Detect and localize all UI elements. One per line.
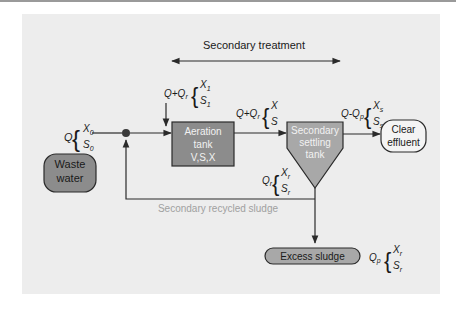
svg-text:Xr: Xr — [280, 167, 291, 180]
svg-text:S1: S1 — [200, 95, 211, 108]
aeration-outlet-label: Q+Qr { X S — [236, 100, 278, 129]
recycle-label: Secondary recycled sludge — [158, 203, 279, 214]
excess-sludge-label: Excess sludge — [280, 251, 345, 262]
svg-text:Xs: Xs — [372, 100, 384, 113]
svg-text:X1: X1 — [199, 79, 211, 92]
svg-text:Q+Qr: Q+Qr — [236, 108, 260, 120]
svg-text:S0: S0 — [83, 139, 94, 152]
aeration-tank-label-3: V,S,X — [191, 152, 216, 163]
waste-water-label-1: Waste — [55, 158, 86, 170]
svg-text:{: { — [262, 104, 269, 129]
aeration-tank-label-1: Aeration — [184, 126, 221, 137]
svg-text:X0: X0 — [82, 123, 94, 136]
settling-tank-label-1: Secondary — [291, 125, 339, 136]
effluent-stream-label: Q-Qp { Xs Ss — [341, 100, 384, 129]
svg-text:X: X — [270, 100, 278, 111]
aeration-inlet-label: Q+Qr { X1 S1 — [164, 79, 211, 108]
svg-text:{: { — [72, 125, 80, 152]
influent-stream-label: Q { X0 S0 — [64, 123, 94, 152]
svg-text:S: S — [271, 116, 278, 127]
mixing-junction — [122, 129, 130, 137]
svg-text:Sr: Sr — [393, 260, 403, 273]
clear-effluent-label-2: effluent — [387, 137, 420, 148]
svg-text:{: { — [272, 171, 279, 196]
svg-text:{: { — [191, 83, 198, 108]
svg-text:Xr: Xr — [392, 244, 403, 257]
clear-effluent-label-1: Clear — [392, 124, 417, 135]
aeration-tank-label-2: tank — [194, 139, 214, 150]
svg-text:{: { — [364, 104, 371, 129]
waste-water-label-2: water — [56, 172, 84, 184]
svg-text:Qp: Qp — [369, 252, 381, 265]
title-label: Secondary treatment — [203, 39, 305, 51]
settling-tank-label-3: tank — [306, 149, 326, 160]
purge-stream-label: Qp { Xr Sr — [369, 244, 403, 273]
svg-text:{: { — [384, 248, 391, 273]
svg-text:Q-Qp: Q-Qp — [341, 108, 364, 121]
svg-text:Sr: Sr — [281, 183, 291, 196]
svg-text:Q+Qr: Q+Qr — [164, 88, 188, 100]
recycle-stream-label: Qr { Xr Sr — [262, 167, 291, 196]
process-diagram: Secondary treatment Waste water Q { X0 S… — [0, 0, 456, 310]
settling-tank-label-2: settling — [299, 137, 331, 148]
